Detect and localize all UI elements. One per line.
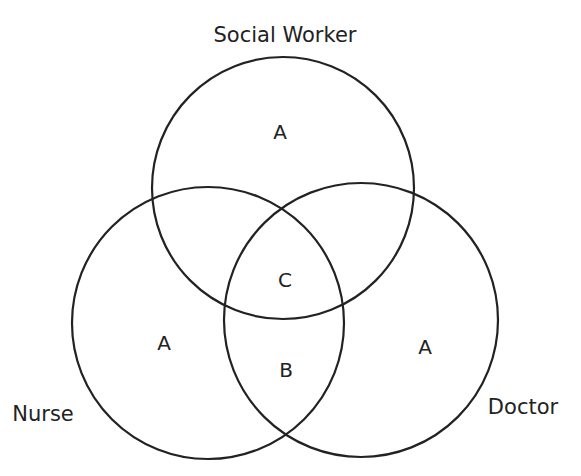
doctor-circle [224,183,498,457]
region-social-worker-only: A [273,120,287,144]
region-all-three: C [278,268,292,292]
venn-diagram: Social Worker Nurse Doctor A A A C B [0,0,581,476]
nurse-label: Nurse [12,402,74,426]
social-worker-label: Social Worker [214,23,357,47]
region-nurse-doctor: B [279,358,293,382]
doctor-label: Doctor [488,395,559,419]
region-doctor-only: A [418,335,432,359]
nurse-circle [72,187,344,459]
region-nurse-only: A [157,331,171,355]
